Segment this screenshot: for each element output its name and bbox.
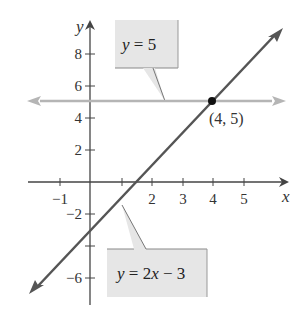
svg-text:4: 4 — [209, 191, 217, 207]
chart: y = 5 y = 2x − 3 −1 2 3 4 5 x — [0, 0, 307, 328]
callout-line-text: y = 2x − 3 — [115, 264, 185, 283]
intersection-point — [208, 97, 216, 105]
svg-text:−2: −2 — [66, 206, 82, 222]
arrow-left-icon — [27, 96, 41, 106]
y-tick-labels: 8 6 4 2 −2 −6 — [66, 46, 82, 286]
x-tick-labels: −1 2 3 4 5 — [52, 191, 248, 207]
svg-text:8: 8 — [75, 46, 83, 62]
callout-y-equals-5: y = 5 — [115, 20, 178, 101]
arrow-right-icon — [272, 96, 286, 106]
y-axis-label: y — [74, 17, 84, 36]
svg-text:5: 5 — [240, 191, 248, 207]
svg-text:6: 6 — [75, 78, 83, 94]
x-axis-label: x — [281, 187, 290, 206]
svg-text:3: 3 — [179, 191, 187, 207]
svg-text:−1: −1 — [52, 191, 68, 207]
callout-y5-text: y = 5 — [120, 35, 156, 54]
callout-y-equals-2x-minus-3: y = 2x − 3 — [107, 205, 207, 297]
svg-text:2: 2 — [75, 142, 83, 158]
intersection-label: (4, 5) — [209, 110, 244, 128]
svg-text:4: 4 — [75, 110, 83, 126]
svg-text:−6: −6 — [66, 270, 82, 286]
svg-text:2: 2 — [148, 191, 156, 207]
